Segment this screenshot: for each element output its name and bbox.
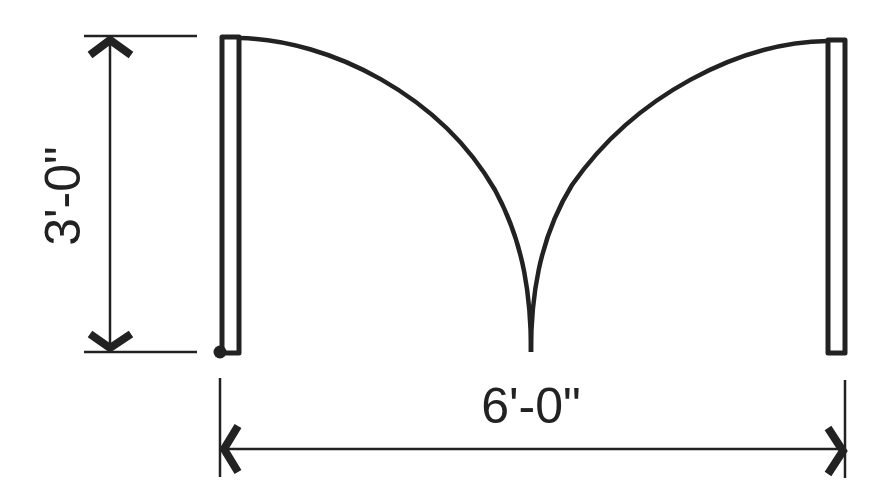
vertical-dimension: 3'-0" xyxy=(35,36,197,352)
right-door-leaf xyxy=(828,40,845,353)
height-dimension-label: 3'-0" xyxy=(35,146,91,246)
arrow-right-icon xyxy=(828,428,843,474)
double-door-plan-diagram: 3'-0" 6'-0" xyxy=(0,0,884,495)
width-dimension-label: 6'-0" xyxy=(481,378,581,434)
hinge-point xyxy=(214,346,227,359)
left-swing-arc xyxy=(240,38,531,352)
left-door-leaf xyxy=(222,37,239,353)
right-swing-arc xyxy=(531,41,828,352)
horizontal-dimension: 6'-0" xyxy=(220,378,845,478)
